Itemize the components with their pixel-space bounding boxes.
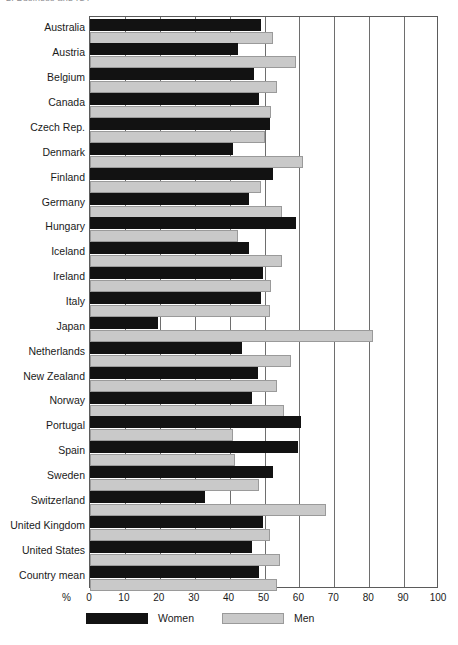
bar-women bbox=[90, 168, 273, 180]
bar-men bbox=[90, 156, 303, 168]
x-tick-label: 30 bbox=[179, 592, 209, 603]
bar-row bbox=[90, 143, 437, 168]
category-label: Czech Rep. bbox=[0, 122, 85, 133]
bar-row bbox=[90, 68, 437, 93]
category-label: Japan bbox=[0, 321, 85, 332]
x-axis: % 0102030405060708090100 bbox=[0, 592, 458, 608]
bar-women bbox=[90, 466, 273, 478]
bar-row bbox=[90, 267, 437, 292]
x-axis-unit-label: % bbox=[62, 592, 71, 603]
bar-row bbox=[90, 392, 437, 417]
bar-row bbox=[90, 292, 437, 317]
clipped-header-text: 2. Business and ICT bbox=[6, 0, 91, 2]
chart-container: 2. Business and ICT AustraliaAustriaBelg… bbox=[0, 0, 458, 645]
x-tick-label: 20 bbox=[144, 592, 174, 603]
bar-row bbox=[90, 19, 437, 44]
bar-men bbox=[90, 454, 235, 466]
legend-swatch-men bbox=[222, 613, 284, 624]
bar-women bbox=[90, 566, 259, 578]
bar-women bbox=[90, 516, 263, 528]
category-label: Hungary bbox=[0, 221, 85, 232]
bar-row bbox=[90, 367, 437, 392]
bar-men bbox=[90, 56, 296, 68]
bar-men bbox=[90, 32, 273, 44]
bar-women bbox=[90, 193, 249, 205]
bar-men bbox=[90, 206, 282, 218]
chart-legend: Women Men bbox=[0, 612, 458, 632]
x-tick-label: 50 bbox=[249, 592, 279, 603]
bar-women bbox=[90, 367, 258, 379]
x-tick-label: 90 bbox=[388, 592, 418, 603]
bar-women bbox=[90, 143, 233, 155]
plot-area bbox=[89, 16, 438, 588]
bar-row bbox=[90, 416, 437, 441]
bar-row bbox=[90, 242, 437, 267]
bar-men bbox=[90, 405, 284, 417]
category-label: New Zealand bbox=[0, 371, 85, 382]
bar-men bbox=[90, 131, 265, 143]
bar-men bbox=[90, 330, 373, 342]
category-label: Germany bbox=[0, 197, 85, 208]
bar-men bbox=[90, 380, 277, 392]
x-tick-label: 0 bbox=[74, 592, 104, 603]
bar-women bbox=[90, 242, 249, 254]
category-label: Italy bbox=[0, 296, 85, 307]
x-tick-label: 70 bbox=[318, 592, 348, 603]
category-label: Iceland bbox=[0, 246, 85, 257]
bar-row bbox=[90, 342, 437, 367]
bar-row bbox=[90, 491, 437, 516]
bar-row bbox=[90, 217, 437, 242]
category-label: Austria bbox=[0, 47, 85, 58]
bar-row bbox=[90, 93, 437, 118]
category-label: Portugal bbox=[0, 420, 85, 431]
bar-women bbox=[90, 68, 254, 80]
bar-men bbox=[90, 479, 259, 491]
bar-men bbox=[90, 355, 291, 367]
bar-men bbox=[90, 579, 277, 591]
bar-women bbox=[90, 342, 242, 354]
category-label: Spain bbox=[0, 445, 85, 456]
category-label: Country mean bbox=[0, 570, 85, 581]
bar-row bbox=[90, 516, 437, 541]
x-tick-label: 80 bbox=[353, 592, 383, 603]
bar-women bbox=[90, 292, 261, 304]
bar-women bbox=[90, 217, 296, 229]
bar-men bbox=[90, 504, 326, 516]
bar-men bbox=[90, 529, 270, 541]
category-axis-labels: AustraliaAustriaBelgiumCanadaCzech Rep.D… bbox=[0, 16, 85, 588]
x-tick-label: 100 bbox=[423, 592, 453, 603]
bar-women bbox=[90, 118, 270, 130]
x-tick-label: 60 bbox=[283, 592, 313, 603]
bar-row bbox=[90, 566, 437, 591]
bar-men bbox=[90, 81, 277, 93]
bar-women bbox=[90, 392, 252, 404]
category-label: Finland bbox=[0, 172, 85, 183]
bar-men bbox=[90, 429, 233, 441]
bar-women bbox=[90, 267, 263, 279]
bar-row bbox=[90, 43, 437, 68]
bar-women bbox=[90, 19, 261, 31]
bar-row bbox=[90, 118, 437, 143]
bar-row bbox=[90, 466, 437, 491]
bar-row bbox=[90, 317, 437, 342]
bar-men bbox=[90, 181, 261, 193]
bar-row bbox=[90, 441, 437, 466]
bar-row bbox=[90, 193, 437, 218]
bar-women bbox=[90, 541, 252, 553]
category-label: United States bbox=[0, 545, 85, 556]
bar-women bbox=[90, 416, 301, 428]
category-label: Ireland bbox=[0, 271, 85, 282]
bar-row bbox=[90, 168, 437, 193]
bar-rows bbox=[90, 17, 437, 587]
category-label: Sweden bbox=[0, 470, 85, 481]
bar-women bbox=[90, 317, 158, 329]
legend-label-men: Men bbox=[294, 612, 314, 624]
bar-men bbox=[90, 554, 280, 566]
bar-men bbox=[90, 280, 271, 292]
category-label: Belgium bbox=[0, 72, 85, 83]
bar-women bbox=[90, 93, 259, 105]
legend-swatch-women bbox=[86, 613, 148, 624]
bar-men bbox=[90, 230, 238, 242]
bar-men bbox=[90, 106, 271, 118]
category-label: Canada bbox=[0, 97, 85, 108]
